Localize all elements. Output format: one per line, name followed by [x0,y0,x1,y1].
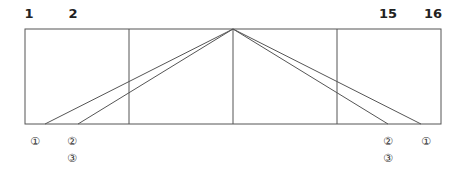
top-label-15: 15 [379,6,397,21]
ray-1-right [233,29,421,124]
bottom-label-right-2: ② [383,135,393,148]
bottom-label-right-3: ③ [383,152,393,165]
bottom-label-left-2: ② [67,135,77,148]
ray-2-left [78,29,233,124]
ray-2-right [233,29,388,124]
bottom-label-left-1: ① [30,135,40,148]
top-label-16: 16 [424,6,442,21]
bottom-label-right-1: ① [421,135,431,148]
ray-1-left [45,29,233,124]
top-label-2: 2 [68,6,77,21]
top-label-1: 1 [24,6,33,21]
bottom-label-left-3: ③ [67,152,77,165]
